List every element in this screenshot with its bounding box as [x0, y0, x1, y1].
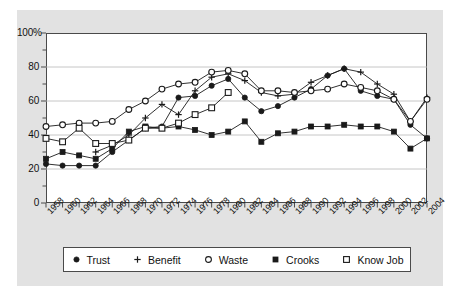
y-tick-label: 0	[17, 197, 39, 208]
filled-circle-icon	[71, 254, 82, 265]
filled-square-icon	[270, 254, 281, 265]
y-tick-label: 40	[17, 129, 39, 140]
legend-label: Benefit	[148, 254, 181, 266]
chart-legend: TrustBenefitWasteCrooksKnow Job	[63, 247, 411, 272]
axis-ticks	[41, 33, 427, 208]
legend-item-waste[interactable]: Waste	[203, 254, 248, 266]
legend-item-crooks[interactable]: Crooks	[270, 254, 319, 266]
chart-figure: 020406080100% 19581960196219641966196819…	[17, 10, 443, 286]
legend-item-benefit[interactable]: Benefit	[132, 254, 181, 266]
open-square-icon	[341, 254, 352, 265]
chart-canvas	[17, 10, 443, 286]
series-know-job	[43, 90, 231, 147]
legend-label: Crooks	[286, 254, 319, 266]
open-circle-icon	[203, 254, 214, 265]
y-tick-label: 20	[17, 163, 39, 174]
y-tick-label: 60	[17, 95, 39, 106]
legend-item-know-job[interactable]: Know Job	[341, 254, 403, 266]
plus-icon	[132, 254, 143, 265]
legend-label: Waste	[219, 254, 248, 266]
y-tick-label: 80	[17, 61, 39, 72]
series-crooks	[44, 119, 430, 161]
data-series	[43, 66, 430, 169]
series-trust	[43, 66, 429, 168]
legend-item-trust[interactable]: Trust	[71, 254, 111, 266]
legend-label: Know Job	[357, 254, 403, 266]
y-tick-label: 100%	[17, 27, 39, 38]
legend-label: Trust	[87, 254, 111, 266]
